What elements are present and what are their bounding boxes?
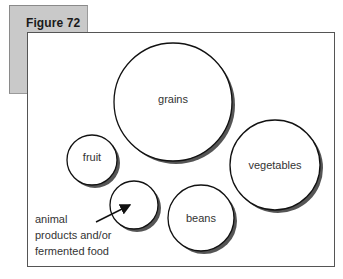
circle-beans: beans — [168, 185, 237, 254]
label-fruit: fruit — [83, 151, 101, 163]
diagram-canvas: grains vegetables fruit beans animal pro… — [0, 0, 343, 279]
label-grains: grains — [158, 93, 188, 105]
annotation-line-1: animal — [35, 213, 67, 225]
circle-fruit: fruit — [67, 135, 120, 188]
annotation-line-2: products and/or — [35, 229, 112, 241]
circle-animal-products — [110, 181, 161, 232]
label-vegetables: vegetables — [248, 159, 302, 171]
annotation-line-3: fermented food — [35, 245, 109, 257]
label-beans: beans — [186, 212, 216, 224]
circle-grains: grains — [114, 43, 235, 164]
circle-vegetables: vegetables — [230, 120, 323, 213]
